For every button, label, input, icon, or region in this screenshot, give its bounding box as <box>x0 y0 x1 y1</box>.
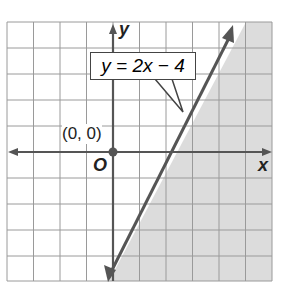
x-axis-left-arrow-icon <box>8 148 18 156</box>
graph <box>0 0 291 301</box>
line-top-arrow-icon <box>222 25 234 43</box>
y-axis-label: y <box>119 19 129 40</box>
origin-label: O <box>93 155 107 176</box>
equation-label: y = 2x − 4 <box>90 52 196 80</box>
callout-pointer <box>155 79 183 112</box>
x-axis-label: x <box>258 155 268 176</box>
y-axis-arrow-icon <box>109 24 117 34</box>
point-label: (0, 0) <box>62 124 102 144</box>
origin-point <box>109 148 118 157</box>
